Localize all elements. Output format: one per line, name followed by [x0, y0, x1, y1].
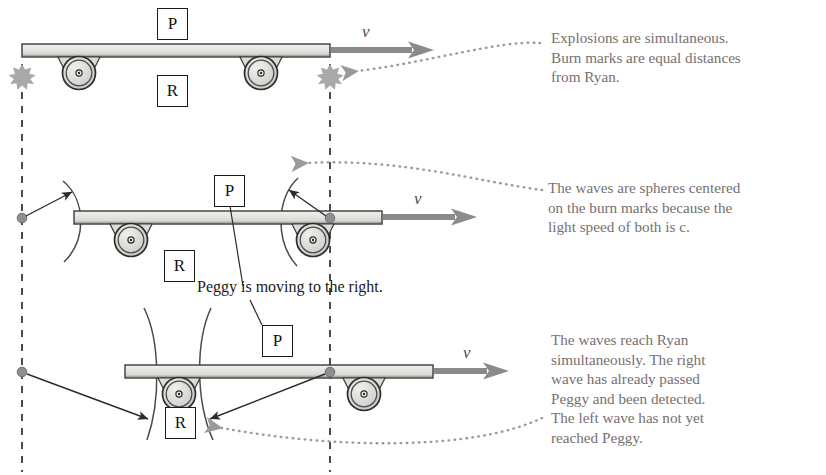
wheel-top-left — [63, 57, 96, 90]
frame-tag-label: P — [273, 331, 282, 351]
panel-middle-graphic — [17, 162, 542, 286]
leader-p-box-bottom — [250, 300, 262, 325]
frame-tag-peggy-middle: P — [214, 175, 245, 207]
explosion-burst-top-right — [317, 64, 344, 90]
annotation-note-middle: The waves are spheres centered on the bu… — [548, 178, 826, 237]
burn-dot-middle-left — [17, 213, 27, 223]
leader-dotted-middle — [308, 162, 542, 190]
burn-dot-bottom-right — [325, 367, 335, 377]
frame-tag-ryan-middle: R — [164, 250, 195, 282]
velocity-arrow-bottom — [434, 363, 509, 380]
frame-tag-peggy-top: P — [157, 8, 188, 40]
wheel-middle-left — [115, 224, 148, 257]
leader-dotted-bottom — [222, 418, 542, 443]
frame-tag-label: R — [175, 413, 186, 433]
burn-dot-middle-right — [325, 213, 335, 223]
platform-bottom — [125, 365, 433, 378]
panel-bottom-graphic — [17, 300, 542, 443]
frame-tag-label: P — [168, 14, 177, 34]
radius-arrow-bottom-right — [210, 374, 325, 419]
platform-middle — [74, 211, 382, 224]
figure-canvas: P R P R P R v v v Explosions are simulta… — [0, 0, 826, 475]
velocity-arrow-top — [331, 42, 434, 59]
wheel-bottom-left — [163, 378, 196, 411]
panel-top-graphic — [9, 42, 541, 90]
frame-tag-label: R — [167, 81, 178, 101]
radius-arrow-middle-left — [26, 192, 72, 216]
velocity-label-top: v — [362, 22, 370, 42]
wheel-bottom-right — [348, 378, 381, 411]
figure-caption: Peggy is moving to the right. — [197, 278, 383, 296]
velocity-arrow-middle — [383, 209, 477, 226]
leader-dotted-top — [358, 43, 540, 71]
burn-dot-bottom-left — [17, 367, 27, 377]
wheel-top-right — [245, 57, 278, 90]
frame-tag-label: R — [174, 256, 185, 276]
frame-tag-label: P — [225, 181, 234, 201]
explosion-burst-top-left — [9, 64, 36, 90]
frame-tag-ryan-bottom: R — [165, 407, 196, 439]
annotation-note-top: Explosions are simultaneous. Burn marks … — [551, 28, 826, 87]
velocity-label-middle: v — [414, 189, 422, 209]
wheel-middle-right — [297, 224, 330, 257]
radius-arrow-bottom-left — [27, 374, 148, 419]
platform-top — [22, 44, 330, 57]
annotation-note-bottom: The waves reach Ryan simultaneously. The… — [551, 330, 826, 448]
frame-tag-ryan-top: R — [157, 75, 188, 107]
frame-tag-peggy-bottom: P — [262, 325, 293, 357]
velocity-label-bottom: v — [463, 343, 471, 363]
